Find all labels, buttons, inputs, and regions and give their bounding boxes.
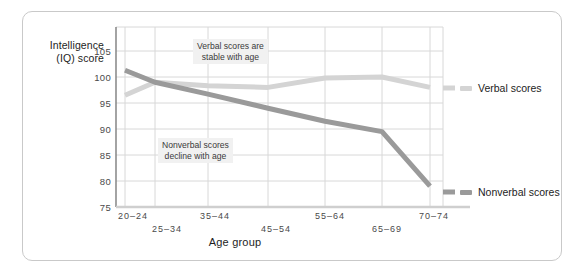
x-tick-65-69: 65–69 xyxy=(372,224,402,234)
annotation-verbal-line1: Verbal scores are xyxy=(197,41,264,52)
x-tick-45-54: 45–54 xyxy=(261,224,291,234)
legend-item-verbal[interactable]: Verbal scores xyxy=(460,82,542,94)
x-axis-title: Age group xyxy=(0,236,470,248)
annotation-verbal: Verbal scores are stable with age xyxy=(193,39,268,64)
x-tick-70-74: 70–74 xyxy=(419,211,449,221)
plot-area xyxy=(0,0,585,273)
legend-swatch-verbal-icon xyxy=(460,86,472,91)
x-tick-25-34: 25–34 xyxy=(152,224,182,234)
legend-label-verbal: Verbal scores xyxy=(478,82,542,94)
x-tick-20-24: 20–24 xyxy=(118,211,148,221)
annotation-nonverbal-line1: Nonverbal scores xyxy=(162,140,229,151)
chart-figure: Intelligence (IQ) score 105 100 95 90 85… xyxy=(0,0,585,273)
x-tick-35-44: 35–44 xyxy=(200,211,230,221)
legend-label-nonverbal: Nonverbal scores xyxy=(478,186,560,198)
annotation-nonverbal-line2: decline with age xyxy=(162,151,229,162)
x-tick-55-64: 55–64 xyxy=(315,211,345,221)
legend-swatch-nonverbal-icon xyxy=(460,190,472,195)
annotation-verbal-line2: stable with age xyxy=(197,52,264,63)
legend-item-nonverbal[interactable]: Nonverbal scores xyxy=(460,186,560,198)
annotation-nonverbal: Nonverbal scores decline with age xyxy=(158,138,233,163)
